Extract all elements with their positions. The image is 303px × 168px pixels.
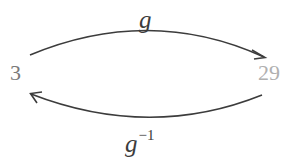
node-right-label: 29 — [258, 62, 280, 84]
mapping-diagram: 3 29 g g−1 — [0, 0, 303, 168]
inverse-map-base: g — [125, 130, 138, 157]
forward-arrow — [30, 30, 264, 57]
forward-map-label: g — [139, 7, 152, 32]
node-left-label: 3 — [10, 62, 21, 84]
inverse-map-label: g−1 — [125, 128, 154, 156]
inverse-arrow — [31, 94, 262, 117]
forward-arrowhead-icon — [252, 50, 265, 59]
inverse-exponent: −1 — [139, 127, 155, 143]
